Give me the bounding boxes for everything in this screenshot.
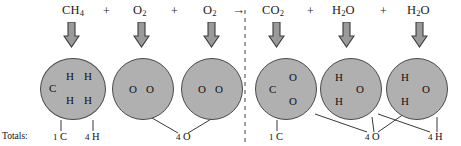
atom-hydrogen-1: H	[335, 72, 343, 83]
oxygen-molecule-1: O O	[112, 58, 174, 120]
atom-oxygen-1: O	[289, 72, 297, 83]
atom-carbon: C	[49, 83, 56, 94]
total-reactant-carbon: 1 C	[53, 132, 67, 143]
atom-hydrogen-1: H	[401, 72, 409, 83]
atom-oxygen-2: O	[215, 84, 223, 95]
atom-hydrogen-3: H	[66, 95, 74, 106]
total-product-oxygen: 4 O	[365, 132, 379, 143]
atom-oxygen-2: O	[289, 96, 297, 107]
atom-oxygen-1: O	[198, 84, 206, 95]
atom-oxygen: O	[356, 84, 364, 95]
atom-hydrogen-1: H	[66, 71, 74, 82]
total-reactant-oxygen: 4 O	[176, 132, 190, 143]
atom-hydrogen-2: H	[401, 96, 409, 107]
reaction-diagram: CH4 + O2 + O2 → CO2 + H2O + H2O	[0, 0, 461, 146]
atom-hydrogen-2: H	[335, 96, 343, 107]
methane-molecule: C H H H H	[40, 58, 106, 120]
atom-oxygen: O	[422, 84, 430, 95]
atom-oxygen-1: O	[129, 84, 137, 95]
totals-label: Totals:	[2, 132, 28, 142]
total-reactant-hydrogen: 4 H	[85, 132, 99, 143]
water-molecule-2: H H O	[386, 58, 448, 120]
atom-hydrogen-2: H	[84, 71, 92, 82]
atom-carbon: C	[269, 84, 276, 95]
total-product-carbon: 1 C	[269, 132, 283, 143]
carbon-dioxide-molecule: C O O	[255, 58, 317, 120]
total-product-hydrogen: 4 H	[428, 132, 442, 143]
atom-hydrogen-4: H	[84, 95, 92, 106]
water-molecule-1: H H O	[320, 58, 382, 120]
atom-oxygen-2: O	[146, 84, 154, 95]
oxygen-molecule-2: O O	[181, 58, 243, 120]
